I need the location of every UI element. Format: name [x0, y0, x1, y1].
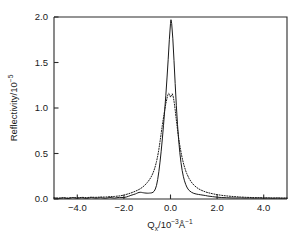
x-tick-label: 0.0: [164, 202, 177, 213]
x-axis-title: Qx/10−3Å−1: [147, 218, 193, 231]
y-tick-label: 0.0: [35, 193, 48, 204]
y-tick-label: 1.0: [35, 102, 48, 113]
y-axis-title: Reflectivity/10−5: [7, 74, 19, 141]
x-tick-label: 4.0: [257, 202, 270, 213]
axis-frame: [54, 17, 287, 199]
y-axis-ticks: [54, 17, 59, 199]
y-tick-label: 1.5: [35, 57, 48, 68]
x-tick-label: −2.0: [115, 202, 134, 213]
reflectivity-figure: −4.0−2.00.02.04.0 0.00.51.01.52.0 Qx/10−…: [0, 0, 301, 241]
data-series-group: [54, 20, 287, 199]
y-tick-label: 2.0: [35, 11, 48, 22]
y-tick-label: 0.5: [35, 148, 48, 159]
reflectivity-chart: −4.0−2.00.02.04.0 0.00.51.01.52.0 Qx/10−…: [0, 0, 301, 241]
series-calculated-reflectivity: [54, 93, 287, 198]
x-tick-label: −4.0: [68, 202, 87, 213]
x-axis-tick-labels: −4.0−2.00.02.04.0: [68, 202, 270, 213]
series-measured-reflectivity: [54, 20, 287, 199]
axis-spines: [54, 17, 287, 199]
x-tick-label: 2.0: [210, 202, 223, 213]
y-axis-tick-labels: 0.00.51.01.52.0: [35, 11, 48, 204]
